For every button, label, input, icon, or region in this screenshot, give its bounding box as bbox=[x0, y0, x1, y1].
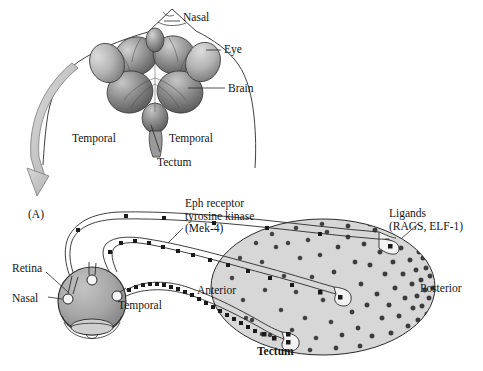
label-posterior: Posterior bbox=[420, 282, 462, 295]
panel-label: (A) bbox=[28, 208, 44, 221]
label-temporal-bottom: Temporal bbox=[118, 299, 162, 312]
label-temporal-left: Temporal bbox=[72, 132, 116, 145]
label-eph-receptor: Eph receptor tyrosine kinase (Mek-4) bbox=[185, 197, 254, 235]
label-brain-top: Brain bbox=[228, 82, 254, 95]
label-ligands: Ligands (RAGS, ELF-1) bbox=[389, 207, 463, 232]
label-eye-top: Eye bbox=[224, 43, 242, 56]
label-nasal-top: Nasal bbox=[183, 11, 209, 24]
label-tectum-top: Tectum bbox=[157, 156, 191, 169]
curved-arrow bbox=[27, 63, 78, 196]
label-tectum-bottom: Tectum bbox=[257, 345, 294, 358]
retinotectal-figure bbox=[0, 0, 483, 371]
label-retina: Retina bbox=[12, 262, 42, 275]
retina-eye bbox=[58, 262, 126, 339]
label-temporal-right: Temporal bbox=[169, 132, 213, 145]
label-nasal-bottom: Nasal bbox=[12, 292, 38, 305]
label-anterior: Anterior bbox=[197, 284, 236, 297]
